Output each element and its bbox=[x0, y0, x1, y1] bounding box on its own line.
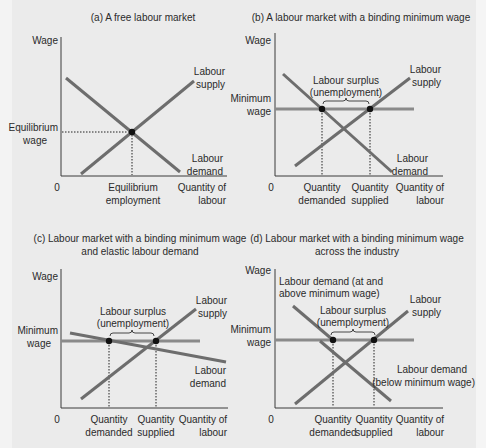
panel-c-x-axis-label-line2: labour bbox=[199, 427, 227, 438]
panel-d-x-axis-label-line1: Quantity of bbox=[396, 414, 445, 425]
panel-d-title-line1: (d) Labour market with a binding minimum… bbox=[250, 233, 464, 244]
panel-c-demand-label-line2: demand bbox=[190, 378, 226, 389]
panel-c-y-axis-label: Wage bbox=[32, 271, 58, 282]
panel-a-free-labour-market: (a) A free labour market Wage 0 Quantity… bbox=[9, 12, 227, 206]
panel-c-minimum-wage-label-line2: wage bbox=[26, 338, 51, 349]
panel-c-origin-label: 0 bbox=[54, 414, 60, 425]
panel-a-demand-label-line1: Labour bbox=[192, 153, 224, 164]
panel-b-origin-label: 0 bbox=[268, 182, 274, 193]
panel-c-surplus-brace bbox=[110, 330, 154, 336]
panel-a-supply-label-line2: supply bbox=[196, 79, 225, 90]
panel-c-quantity-demanded-label-line1: Quantity bbox=[90, 414, 127, 425]
panel-d-supply-label-line1: Labour bbox=[410, 294, 442, 305]
panel-d-quantity-supplied-label-line2: supplied bbox=[355, 427, 392, 438]
panel-d-quantity-demanded-label-line2: demanded bbox=[309, 427, 356, 438]
panel-b-quantity-demanded-point bbox=[319, 106, 325, 112]
panel-a-equilibrium-employment-label-line2: employment bbox=[106, 195, 161, 206]
panel-c-demand-label-line1: Labour bbox=[195, 365, 227, 376]
panel-b-supply-label-line1: Labour bbox=[410, 64, 442, 75]
panel-d-industry-wide-minimum-wage: (d) Labour market with a binding minimum… bbox=[230, 233, 475, 438]
panel-c-quantity-supplied-label-line1: Quantity bbox=[137, 414, 174, 425]
panel-d-y-axis-label: Wage bbox=[245, 265, 271, 276]
panel-c-title-line1: (c) Labour market with a binding minimum… bbox=[34, 233, 247, 244]
panel-d-demand-upper-label-line1: Labour demand (at and bbox=[279, 276, 383, 287]
panel-b-minimum-wage-label-line1: Minimum bbox=[230, 93, 271, 104]
panel-c-elastic-labour-demand: (c) Labour market with a binding minimum… bbox=[17, 233, 246, 438]
panel-c-surplus-label-line1: Labour surplus bbox=[100, 306, 166, 317]
panel-d-quantity-supplied-label-line1: Quantity bbox=[355, 414, 392, 425]
panel-c-x-axis-label-line1: Quantity of bbox=[179, 414, 228, 425]
panel-b-quantity-demanded-label-line2: demanded bbox=[298, 195, 345, 206]
panel-d-labour-demand-lower-curve bbox=[320, 341, 391, 401]
panel-c-quantity-supplied-point bbox=[153, 338, 159, 344]
panel-a-labour-demand-curve bbox=[66, 78, 180, 172]
panel-b-supply-label-line2: supply bbox=[412, 77, 441, 88]
panel-c-quantity-supplied-label-line2: supplied bbox=[137, 427, 174, 438]
panel-d-minimum-wage-label-line1: Minimum bbox=[230, 324, 271, 335]
panel-d-quantity-demanded-label-line1: Quantity bbox=[314, 414, 351, 425]
panel-d-quantity-supplied-point bbox=[371, 337, 377, 343]
panel-c-surplus-label-line2: (unemployment) bbox=[97, 318, 169, 329]
panel-b-minimum-wage-label-line2: wage bbox=[246, 106, 271, 117]
panel-a-equilibrium-point bbox=[129, 129, 135, 135]
panel-d-demand-lower-label-line1: Labour demand bbox=[397, 364, 467, 375]
panel-b-binding-minimum-wage: (b) A labour market with a binding minim… bbox=[230, 12, 470, 206]
panel-b-quantity-supplied-label-line2: supplied bbox=[351, 195, 388, 206]
panel-d-title-line2: across the industry bbox=[315, 246, 399, 257]
panel-a-x-axis-label-line1: Quantity of bbox=[178, 182, 227, 193]
panel-b-quantity-supplied-point bbox=[367, 106, 373, 112]
panel-a-supply-label-line1: Labour bbox=[194, 66, 226, 77]
panel-c-quantity-demanded-point bbox=[106, 338, 112, 344]
panel-b-quantity-demanded-label-line1: Quantity bbox=[303, 182, 340, 193]
panel-b-title: (b) A labour market with a binding minim… bbox=[252, 12, 471, 23]
panel-b-quantity-supplied-label-line1: Quantity bbox=[351, 182, 388, 193]
panel-c-supply-label-line1: Labour bbox=[196, 295, 228, 306]
panel-d-surplus-brace bbox=[331, 329, 375, 335]
labour-market-figure: (a) A free labour market Wage 0 Quantity… bbox=[0, 0, 486, 448]
panel-a-origin-label: 0 bbox=[54, 182, 60, 193]
panel-c-supply-label-line2: supply bbox=[198, 308, 227, 319]
panel-a-y-axis-label: Wage bbox=[32, 35, 58, 46]
panel-a-labour-supply-curve bbox=[81, 81, 194, 174]
panel-d-quantity-demanded-point bbox=[330, 337, 336, 343]
panel-a-demand-label-line2: demand bbox=[187, 166, 223, 177]
panel-a-equilibrium-wage-label-line2: wage bbox=[22, 135, 47, 146]
panel-d-origin-label: 0 bbox=[268, 414, 274, 425]
panel-d-supply-label-line2: supply bbox=[412, 307, 441, 318]
panel-d-minimum-wage-label-line2: wage bbox=[246, 337, 271, 348]
panel-b-demand-label-line2: demand bbox=[392, 166, 428, 177]
panel-d-surplus-label-line2: (unemployment) bbox=[317, 317, 389, 328]
panel-b-x-axis-label-line1: Quantity of bbox=[396, 182, 445, 193]
panel-a-title: (a) A free labour market bbox=[91, 12, 196, 23]
panel-d-demand-upper-label-line2: above minimum wage) bbox=[279, 288, 380, 299]
panel-d-x-axis-label-line2: labour bbox=[416, 427, 444, 438]
panel-b-surplus-brace bbox=[323, 98, 369, 104]
panel-a-x-axis-label-line2: labour bbox=[198, 195, 226, 206]
panel-b-surplus-label-line1: Labour surplus bbox=[313, 75, 379, 86]
panel-c-quantity-demanded-label-line2: demanded bbox=[85, 427, 132, 438]
panel-b-surplus-label-line2: (unemployment) bbox=[310, 87, 382, 98]
panel-a-equilibrium-employment-label-line1: Equilibrium bbox=[108, 182, 157, 193]
panel-b-demand-label-line1: Labour bbox=[397, 153, 429, 164]
panel-d-surplus-label-line1: Labour surplus bbox=[320, 305, 386, 316]
panel-c-minimum-wage-label-line1: Minimum bbox=[17, 325, 58, 336]
panel-b-x-axis-label-line2: labour bbox=[416, 195, 444, 206]
panel-b-y-axis-label: Wage bbox=[245, 35, 271, 46]
panel-a-equilibrium-wage-label-line1: Equilibrium bbox=[9, 122, 58, 133]
panel-c-title-line2: and elastic labour demand bbox=[81, 246, 198, 257]
panel-d-demand-lower-label-line2: (below minimum wage) bbox=[372, 377, 475, 388]
